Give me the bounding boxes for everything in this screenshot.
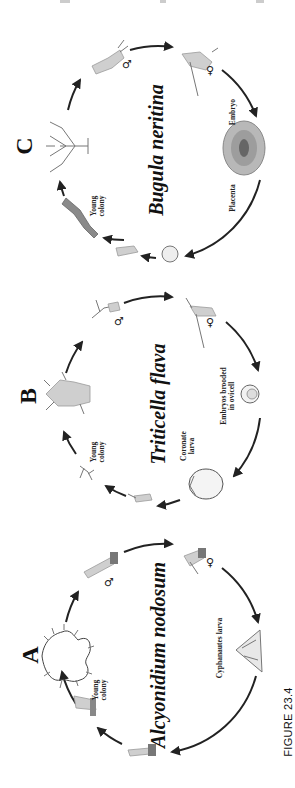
cycle-arrow [158,500,180,506]
label-young-colony: Youngcolony [91,679,108,700]
female-zooid-illustration [184,548,206,574]
figure-label: FIGURE 23.4 [282,687,294,756]
adult-colony-illustration [42,624,94,688]
label-young-colony: Youngcolony [89,441,106,462]
panel-a: A ♂ ♀ Cyphanautes larva [17,544,262,756]
larva-illustration [162,246,178,262]
coronate-larva-illustration [189,469,223,499]
young-colony-illustration [80,466,94,480]
cycle-arrow [64,432,76,454]
male-symbol: ♂ [114,315,124,328]
ovicell-embryos-illustration [241,385,259,403]
panel-b: B ♂ ♀ Embryos broodedin ovic [15,296,260,506]
cycle-arrow [66,592,78,622]
label-placenta: Placenta [228,184,237,212]
label-embryos-brooded: Embryos broodedin ovicell [219,366,236,424]
cycle-arrow [66,342,82,373]
cycle-arrow [104,238,124,240]
label-cyphanautes-larva: Cyphanautes larva [215,617,224,678]
cycle-arrow [234,418,260,476]
male-symbol: ♂ [104,576,114,589]
cycle-arrow [142,256,156,258]
species-name-bugula-neritina: Bugula neritina [145,84,168,217]
panel-c: C ♂ ♀ Embryo Placenta [11,40,265,262]
species-name-triticella-flava: Triticella flava [147,344,170,465]
label-young-colony: Youngcolony [89,195,106,216]
panel-letter-c: C [11,137,37,154]
cycle-arrow [226,322,258,370]
male-symbol: ♂ [122,58,132,71]
label-coronate-larva: Coronatelarva [179,430,196,461]
cycle-arrow [124,296,172,303]
life-cycle-figure: C ♂ ♀ Embryo Placenta [0,0,295,788]
cycle-arrow [124,544,172,552]
cycle-arrow [62,672,76,704]
cycle-arrow [222,568,258,622]
female-symbol: ♀ [206,64,214,77]
cycle-arrow [98,728,122,744]
cycle-arrow [186,180,260,256]
species-name-alcyonidium-nodosum: Alcyonidium nodosum [147,562,170,750]
cyphanautes-larva-illustration [236,630,262,672]
ancestrula-illustration [128,494,152,502]
panel-letter-b: B [15,388,41,404]
male-zooid-illustration [84,552,118,578]
panel-letter-a: A [17,646,43,664]
female-symbol: ♀ [206,316,214,329]
brooded-embryo-illustration [223,121,265,175]
cycle-arrow [68,80,80,110]
ancestrula-illustration [116,246,138,256]
cycle-arrow [172,676,256,752]
cycle-arrow [106,486,126,496]
female-symbol: ♀ [206,556,214,569]
label-embryo: Embryo [228,99,237,126]
cycle-arrow [60,182,64,196]
adult-colony-illustration [44,372,90,414]
cropped-header-marks [60,0,264,3]
cycle-arrow [130,46,172,50]
branched-colony-illustration [46,122,88,172]
